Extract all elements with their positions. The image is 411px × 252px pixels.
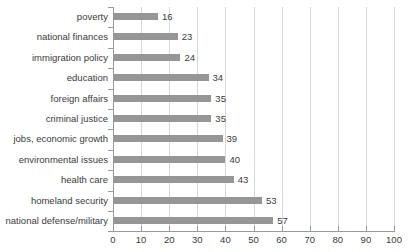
category-label: poverty [0,7,108,27]
y-axis-tick [108,129,113,130]
x-axis-line [113,231,395,232]
category-label: jobs, economic growth [0,129,108,149]
x-axis-tick-label: 30 [192,234,203,246]
x-axis-tick [141,226,142,231]
bar-row: 53 [113,191,394,211]
bar[interactable] [113,54,180,61]
x-axis-tick [225,226,226,231]
bar-row: 34 [113,68,394,88]
bar-row: 43 [113,170,394,190]
category-axis-labels: povertynational financesimmigration poli… [0,7,108,231]
x-axis-tick [310,226,311,231]
category-label: homeland security [0,191,108,211]
bar-row: 35 [113,109,394,129]
x-axis-tick [254,226,255,231]
x-axis-tick [394,226,395,231]
x-axis-tick-label: 90 [361,234,372,246]
y-axis-tick [108,89,113,90]
bar-row: 23 [113,27,394,47]
bar[interactable] [113,33,178,40]
y-axis-tick [108,211,113,212]
x-axis-tick [113,226,114,231]
y-axis-tick [108,191,113,192]
bar-value-label: 39 [227,129,238,148]
gridline-100 [394,7,395,231]
x-axis-tick-label: 40 [220,234,231,246]
bar[interactable] [113,115,211,122]
category-label: education [0,68,108,88]
bar-row: 24 [113,48,394,68]
y-axis-tick [108,7,113,8]
bar-value-label: 23 [182,27,193,46]
y-axis-tick [108,27,113,28]
x-axis-tick [366,226,367,231]
bar-row: 39 [113,129,394,149]
y-axis-tick [108,48,113,49]
category-label: criminal justice [0,109,108,129]
x-axis-tick [338,226,339,231]
bar[interactable] [113,13,158,20]
bar-chart: povertynational financesimmigration poli… [0,0,411,252]
bar-value-label: 34 [213,68,224,87]
bar-value-label: 35 [215,89,226,108]
bar-row: 35 [113,89,394,109]
category-label: national finances [0,27,108,47]
x-axis-tick-label: 20 [164,234,175,246]
y-axis-tick [108,150,113,151]
x-axis-tick-label: 80 [333,234,344,246]
bar[interactable] [113,74,209,81]
bar-value-label: 40 [229,150,240,169]
bar[interactable] [113,156,225,163]
x-axis-tick [169,226,170,231]
bar[interactable] [113,135,223,142]
y-axis-tick [108,170,113,171]
y-axis-tick [108,109,113,110]
x-axis-tick-label: 70 [304,234,315,246]
bar-value-label: 35 [215,109,226,128]
x-axis-tick-label: 50 [248,234,259,246]
bar-row: 40 [113,150,394,170]
bar-row: 16 [113,7,394,27]
bar[interactable] [113,176,234,183]
bar-value-label: 43 [238,170,249,189]
category-label: health care [0,170,108,190]
category-label: immigration policy [0,48,108,68]
category-label: foreign affairs [0,89,108,109]
x-axis-tick-label: 60 [276,234,287,246]
x-axis-tick [282,226,283,231]
x-axis-tick-label: 0 [110,234,115,246]
category-label: environmental issues [0,150,108,170]
y-axis-line [113,7,114,232]
bar[interactable] [113,217,273,224]
bar-value-label: 16 [162,7,173,26]
bar[interactable] [113,197,262,204]
bar-value-label: 24 [184,48,195,67]
category-label: national defense/military [0,211,108,231]
bar[interactable] [113,95,211,102]
x-axis-tick-label: 10 [136,234,147,246]
y-axis-tick [108,68,113,69]
x-axis-tick-label: 100 [386,234,402,246]
plot-area: 1623243435353940435357 [113,7,394,231]
x-axis-tick [197,226,198,231]
bar-value-label: 53 [266,191,277,210]
